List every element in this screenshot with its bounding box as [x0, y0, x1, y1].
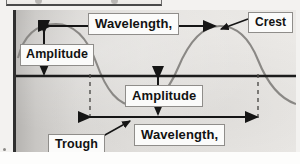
label-wavelength-top: Wavelength,	[88, 13, 179, 35]
page-bottom-margin	[0, 152, 300, 164]
label-wavelength-bottom: Wavelength,	[134, 124, 225, 146]
label-amplitude-left: Amplitude	[20, 44, 94, 66]
diagram-canvas: Wavelength, Crest Amplitude Amplitude Wa…	[0, 0, 300, 164]
crest-pointer-arrow-icon	[221, 19, 248, 29]
page-speck-mark	[3, 148, 6, 151]
label-crest: Crest	[248, 12, 293, 33]
label-amplitude-middle: Amplitude	[125, 85, 203, 107]
